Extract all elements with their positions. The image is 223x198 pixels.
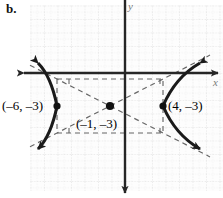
point-center — [106, 102, 114, 110]
point-left-vertex — [53, 102, 60, 109]
y-axis-label: y — [128, 0, 133, 12]
problem-label: b. — [6, 2, 16, 15]
label-left-vertex: (–6, –3) — [2, 99, 43, 112]
label-center: (–1, –3) — [76, 117, 117, 130]
point-right-vertex — [159, 102, 166, 109]
x-axis-label: x — [213, 76, 218, 88]
label-right-vertex: (4, –3) — [168, 99, 203, 112]
hyperbola-figure: b. (–6, –3) (4, –3) (–1, –3) x y — [0, 0, 223, 198]
